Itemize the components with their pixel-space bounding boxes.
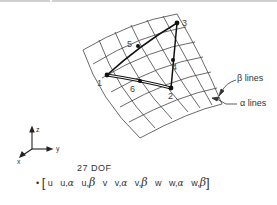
node-3-dot: [175, 21, 180, 26]
dof-term: u,α: [60, 178, 74, 188]
y-axis-label: y: [56, 145, 60, 152]
node-3-label: 3: [182, 18, 187, 28]
curved-mesh-grid: [83, 14, 222, 138]
node-6-label: 6: [130, 84, 135, 94]
x-axis-label: x: [17, 158, 21, 165]
dof-term: v,α: [115, 178, 127, 188]
node-1-label: 1: [97, 78, 102, 88]
edge-1-3: [107, 23, 177, 75]
z-axis-label: z: [36, 126, 40, 133]
x-arrowhead: [20, 152, 25, 157]
alpha-lines-label: α lines: [240, 98, 266, 108]
node-5-dot: [136, 44, 140, 48]
z-arrowhead: [30, 127, 34, 132]
dof-term: u,β: [81, 178, 95, 188]
node-5-label: 5: [127, 39, 132, 49]
close-bracket: ]: [206, 175, 210, 190]
dof-term: w,α: [169, 178, 184, 188]
beta-arrowhead: [219, 89, 224, 96]
node-1-dot: [105, 73, 110, 78]
dof-term: v,β: [135, 178, 148, 188]
bullet-icon: •: [36, 178, 39, 188]
dof-term: u: [48, 178, 53, 188]
beta-lines-label: β lines: [237, 73, 263, 83]
node-6-dot: [138, 79, 142, 83]
dof-title: 27 DOF: [77, 163, 112, 173]
dof-term: w,β: [191, 178, 206, 188]
node-4-label: 4: [172, 62, 177, 72]
dof-term: w: [155, 178, 162, 188]
node-2-label: 2: [168, 91, 173, 101]
alpha-arrowhead: [212, 97, 219, 101]
open-bracket: [: [42, 175, 46, 190]
node-2-dot: [169, 86, 174, 91]
dof-vector: • [ u u,α u,β v v,α v,β w w,α w,β]: [36, 175, 210, 190]
beta-leader: [222, 80, 236, 91]
dof-term: v: [103, 178, 108, 188]
y-arrowhead: [47, 147, 52, 151]
triangular-element: [107, 23, 177, 88]
label-leaders: [212, 80, 237, 104]
